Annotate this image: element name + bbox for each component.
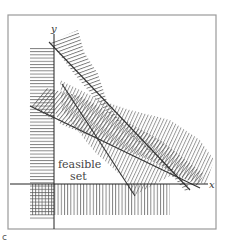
feasible-set-diagram: y x feasible set c <box>0 0 228 245</box>
y-axis-label: y <box>50 23 57 34</box>
hatch-region-y-nonneg <box>30 184 170 215</box>
corner-mark: c <box>2 232 7 242</box>
x-axis-label: x <box>209 179 215 190</box>
feasible-set-label-line2: set <box>70 170 87 183</box>
